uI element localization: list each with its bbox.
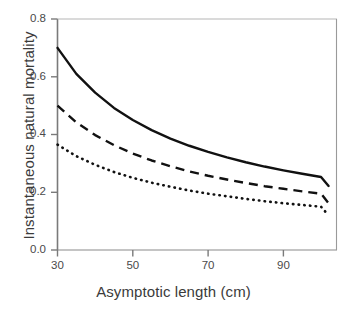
- y-axis-title: Instantaneous natural mortality: [20, 16, 37, 256]
- x-tick-label-1: 50: [118, 259, 148, 271]
- x-axis-title: Asymptotic length (cm): [0, 283, 347, 300]
- x-tick-label-3: 90: [268, 259, 298, 271]
- y-tick-marks: [51, 19, 58, 250]
- x-tick-label-2: 70: [193, 259, 223, 271]
- x-tick-marks: [58, 250, 284, 257]
- series-line-lower-curve: [58, 145, 329, 216]
- x-tick-label-0: 30: [43, 259, 73, 271]
- chart-figure: 0.8 0.6 0.4 0.2 0.0 30 50 70 90 Instanta…: [0, 0, 347, 309]
- data-curves: [58, 48, 329, 215]
- axis-frame: [58, 19, 338, 250]
- series-line-middle-curve: [58, 106, 329, 204]
